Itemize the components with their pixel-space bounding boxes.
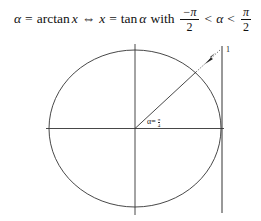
tangent-value-label: 1 (226, 45, 230, 54)
arrowhead-icon (205, 53, 215, 64)
angle-ray (135, 72, 196, 129)
unit-circle-diagram (0, 0, 261, 221)
pi-over-4-fraction: π4 (158, 117, 161, 128)
angle-label: α=π4 (147, 117, 160, 128)
